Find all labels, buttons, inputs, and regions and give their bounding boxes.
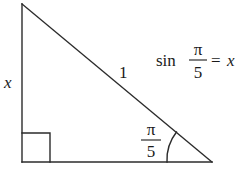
side-label-x: x [3,73,12,92]
hypotenuse-label: 1 [119,63,128,82]
angle-denominator: 5 [147,142,156,161]
triangle-diagram: x 1 π 5 sin π 5 = x [0,0,241,175]
right-angle-marker [22,133,50,162]
equation-denominator: 5 [194,63,203,82]
equation-rhs: x [226,51,235,70]
angle-numerator: π [147,120,156,139]
equation: sin π 5 = x [156,40,235,82]
equation-func: sin [156,51,176,70]
angle-arc [167,132,177,162]
angle-label: π 5 [141,120,161,161]
equation-equals: = [211,51,221,70]
equation-numerator: π [194,40,203,59]
